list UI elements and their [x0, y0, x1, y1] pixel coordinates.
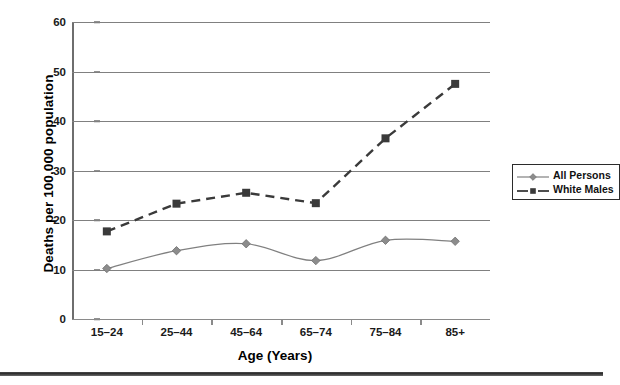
gridline-30: [72, 171, 490, 172]
y-axis-ticks: 0102030405060: [28, 22, 66, 319]
gridline-40: [72, 121, 490, 122]
y-tick-label-20: 20: [32, 214, 66, 226]
x-axis-title: Age (Years): [60, 348, 490, 363]
legend-swatch-white-males: [516, 183, 550, 195]
legend-label-all-persons: All Persons: [550, 169, 611, 181]
footer-rule: [0, 372, 603, 376]
chart-legend: All Persons White Males: [512, 164, 620, 200]
y-tick-label-40: 40: [32, 115, 66, 127]
x-tick-mark-5: [351, 320, 353, 325]
legend-label-white-males: White Males: [550, 183, 614, 195]
gridline-60: [72, 22, 490, 23]
gridline-20: [72, 220, 490, 221]
y-tick-label-30: 30: [32, 165, 66, 177]
plot-area: [72, 22, 490, 319]
y-tick-label-10: 10: [32, 264, 66, 276]
y-tick-label-60: 60: [32, 16, 66, 28]
y-tick-label-0: 0: [32, 313, 66, 325]
y-tick-label-50: 50: [32, 66, 66, 78]
gridline-10: [72, 270, 490, 271]
x-tick-mark-6: [420, 320, 422, 325]
x-tick-label-6: 85+: [410, 326, 500, 338]
legend-item-all-persons: All Persons: [516, 168, 614, 182]
legend-swatch-all-persons: [516, 169, 550, 181]
gridline-50: [72, 72, 490, 73]
x-tick-mark-3: [211, 320, 213, 325]
x-tick-mark-4: [281, 320, 283, 325]
x-tick-mark-2: [142, 320, 144, 325]
legend-item-white-males: White Males: [516, 182, 614, 196]
